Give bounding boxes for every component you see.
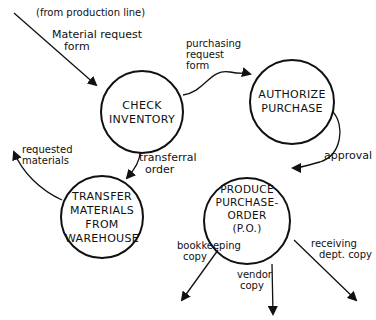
node-transfer-materials-label: TRANSFER MATERIALS FROM WAREHOUSE <box>62 190 142 246</box>
data-flow-diagram: CHECK INVENTORY AUTHORIZE PURCHASE TRANS… <box>0 0 376 320</box>
node-check-inventory-label: CHECK INVENTORY <box>104 99 180 127</box>
flow-line: requested <box>22 144 73 155</box>
node-line: WAREHOUSE <box>62 232 142 246</box>
flow-line: purchasing <box>186 38 241 49</box>
node-line: PURCHASE- <box>207 196 287 209</box>
node-line: (P.O.) <box>207 222 287 235</box>
flow-label-material-request: Material request form <box>52 29 142 53</box>
flow-label-bookkeeping: bookkeeping copy <box>177 240 241 262</box>
flow-label-vendor: vendor copy <box>237 269 272 291</box>
node-line: TRANSFER <box>62 190 142 204</box>
arrow-purchasing-request <box>183 72 250 95</box>
node-produce-po-label: PRODUCE PURCHASE- ORDER (P.O.) <box>207 183 287 235</box>
flow-line: copy <box>237 280 272 291</box>
node-line: ORDER <box>207 209 287 222</box>
flow-label-approval: approval <box>324 150 372 162</box>
flow-line: (from production line) <box>36 7 145 19</box>
flow-label-source: (from production line) <box>36 7 145 19</box>
flow-line: receiving <box>311 238 372 249</box>
flow-label-transferral: transferral order <box>139 152 197 176</box>
flow-line: vendor <box>237 269 272 280</box>
flow-line: dept. copy <box>311 249 372 260</box>
flow-line: request <box>186 49 241 60</box>
flow-line: order <box>139 164 197 176</box>
node-line: INVENTORY <box>104 113 180 127</box>
node-line: AUTHORIZE <box>252 88 332 102</box>
flow-line: bookkeeping <box>177 240 241 251</box>
flow-line: approval <box>324 150 372 162</box>
flow-label-requested-materials: requested materials <box>22 144 73 166</box>
flow-label-purchasing-request: purchasing request form <box>186 38 241 71</box>
node-line: PRODUCE <box>207 183 287 196</box>
flow-line: materials <box>22 155 73 166</box>
flow-line: form <box>186 60 241 71</box>
node-line: FROM <box>62 218 142 232</box>
node-line: MATERIALS <box>62 204 142 218</box>
node-authorize-purchase-label: AUTHORIZE PURCHASE <box>252 88 332 116</box>
node-line: CHECK <box>104 99 180 113</box>
node-line: PURCHASE <box>252 102 332 116</box>
flow-label-receiving: receiving dept. copy <box>311 238 372 260</box>
flow-line: copy <box>177 251 241 262</box>
flow-line: form <box>52 41 142 53</box>
arrow-vendor-copy <box>272 264 273 314</box>
